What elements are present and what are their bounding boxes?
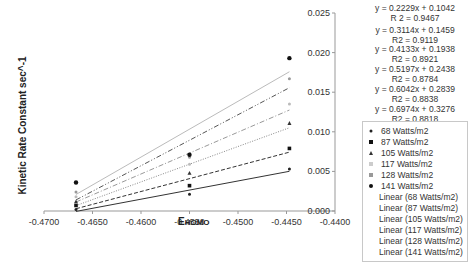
trendline: [76, 128, 289, 206]
x-axis-label: EHOMO: [178, 216, 210, 227]
y-axis-ticks: 0.0000.0050.0100.0150.0200.025: [307, 8, 335, 216]
data-point: [288, 77, 291, 80]
data-point: [188, 193, 191, 196]
y-tick-label: 0.025: [307, 8, 330, 18]
equation-128: y = 0.6042x + 0.2839R2 = 0.8838: [360, 84, 470, 104]
equation-68: y = 0.2229x + 0.1042R 2 = 0.9467: [360, 3, 470, 23]
data-point: [187, 153, 191, 157]
data-point: [188, 184, 192, 188]
trendlines: [76, 72, 289, 212]
x-tick-label: -0.4450: [271, 217, 302, 227]
data-point: [287, 56, 291, 60]
y-tick-label: 0.000: [307, 206, 330, 216]
trendline: [76, 152, 289, 209]
square-marker-icon: [369, 140, 373, 144]
y-tick-label: 0.020: [307, 48, 330, 58]
data-point: [288, 147, 292, 151]
x-axis-label-sub: HOMO: [185, 218, 210, 227]
x-tick-label: -0.4600: [126, 217, 157, 227]
y-tick-label: 0.015: [307, 87, 330, 97]
data-point: [74, 204, 78, 208]
data-point: [74, 180, 78, 184]
triangle-marker-icon: [369, 151, 373, 155]
chart-legend: 68 Watts/m2 87 Watts/m2 105 Watts/m2 117…: [362, 121, 468, 262]
x-axis-label-main: E: [178, 216, 185, 227]
x-marker-icon: [369, 162, 373, 166]
star-marker-icon: [369, 173, 373, 177]
data-point: [288, 103, 291, 106]
y-axis-label: Kinetic Rate Constant sec^-1: [17, 46, 28, 206]
x-tick-label: -0.4650: [77, 217, 108, 227]
trendline: [76, 72, 289, 195]
trendline: [76, 171, 289, 211]
data-point: [75, 208, 78, 211]
dot-marker-icon: [369, 129, 373, 133]
circle-marker-icon: [369, 184, 373, 188]
data-point: [188, 171, 192, 175]
trendline: [76, 88, 289, 200]
equation-117: y = 0.5197x + 0.2438R2 = 0.8784: [360, 64, 470, 84]
data-point: [75, 190, 78, 193]
x-tick-label: -0.4400: [320, 217, 351, 227]
data-point: [188, 163, 191, 166]
x-tick-label: -0.4500: [223, 217, 254, 227]
equation-105: y = 0.4133x + 0.1938R2 = 0.8921: [360, 44, 470, 64]
y-tick-label: 0.005: [307, 166, 330, 176]
data-point: [287, 121, 291, 125]
equation-87: y = 0.3114x + 0.1459R2 = 0.9119: [360, 25, 470, 45]
data-point: [288, 168, 291, 171]
y-tick-label: 0.010: [307, 127, 330, 137]
data-point: [75, 195, 78, 198]
trendline: [76, 110, 289, 202]
x-tick-label: -0.4700: [29, 217, 60, 227]
